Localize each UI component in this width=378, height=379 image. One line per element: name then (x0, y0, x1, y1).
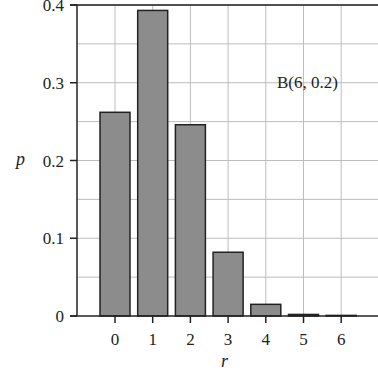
y-tick-label: 0.3 (43, 74, 64, 93)
bar-r-3 (213, 252, 243, 316)
x-tick-label: 4 (262, 330, 271, 349)
bar-r-1 (138, 10, 168, 316)
y-tick-labels: 00.10.20.30.4 (43, 0, 77, 326)
annotation-label: B(6, 0.2) (277, 73, 338, 92)
bar-r-4 (251, 304, 281, 316)
x-tick-label: 3 (224, 330, 233, 349)
y-axis-label: p (14, 149, 25, 169)
x-tick-label: 0 (111, 330, 120, 349)
x-tick-label: 6 (337, 330, 346, 349)
y-tick-label: 0.4 (43, 0, 65, 15)
binomial-bar-chart: 00.10.20.30.4 0123456 B(6, 0.2) p r (0, 0, 378, 379)
x-axis-label: r (221, 351, 229, 371)
x-tick-label: 1 (148, 330, 157, 349)
y-tick-label: 0.2 (43, 152, 64, 171)
x-tick-label: 2 (186, 330, 195, 349)
bar-r-2 (175, 125, 205, 316)
y-tick-label: 0 (56, 307, 65, 326)
x-tick-labels: 0123456 (111, 316, 346, 349)
bar-r-0 (100, 112, 130, 316)
y-tick-label: 0.1 (43, 229, 64, 248)
x-tick-label: 5 (299, 330, 308, 349)
